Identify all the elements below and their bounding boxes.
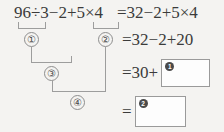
solution-step-3: =30+ 1 xyxy=(122,59,210,87)
answer-box-1[interactable]: 1 xyxy=(161,59,210,87)
brace-3 xyxy=(31,56,72,63)
brace-4 xyxy=(52,85,106,92)
answer-badge-1: 1 xyxy=(165,62,174,71)
answer-badge-2: 2 xyxy=(139,99,148,108)
order-label-3: ③ xyxy=(44,66,59,81)
solution-step-4: = 2 xyxy=(122,96,186,127)
order-label-2: ② xyxy=(98,32,113,47)
brace-1 xyxy=(18,22,46,29)
order-label-4: ④ xyxy=(70,95,85,110)
brace-2 xyxy=(93,22,119,29)
answer-box-2[interactable]: 2 xyxy=(135,96,186,127)
math-worksheet: 96÷3−2+5×4 =32−2+5×4 =32−2+20 =30+ 1 = 2… xyxy=(0,0,224,132)
order-label-1: ① xyxy=(24,32,39,47)
solution-step-2: =32−2+20 xyxy=(122,30,193,50)
order-of-operations-tree: ① ② ③ ④ xyxy=(0,18,130,118)
